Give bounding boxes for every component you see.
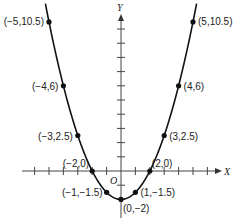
parabola-chart: (−5,10.5)(−4,6)(−3,2.5)(−2,0)(−1,−1.5)(0… bbox=[0, 0, 235, 222]
data-point bbox=[118, 197, 123, 202]
point-label: (−3,2.5) bbox=[38, 131, 73, 142]
data-point bbox=[75, 133, 80, 138]
data-point bbox=[90, 168, 95, 173]
data-point bbox=[46, 19, 51, 24]
y-axis-label: Y bbox=[117, 2, 124, 13]
data-point bbox=[104, 190, 109, 195]
point-label: (0,−2) bbox=[123, 203, 149, 214]
data-point bbox=[190, 19, 195, 24]
point-label: (1,−1.5) bbox=[140, 187, 175, 198]
point-label: (4,6) bbox=[184, 81, 205, 92]
data-point bbox=[176, 83, 181, 88]
point-label: (3,2.5) bbox=[169, 131, 198, 142]
point-label: (2,0) bbox=[152, 158, 173, 169]
data-point bbox=[133, 190, 138, 195]
point-label: (−4,6) bbox=[32, 81, 58, 92]
x-axis-label: X bbox=[223, 166, 231, 177]
data-point bbox=[61, 83, 66, 88]
axes bbox=[22, 14, 222, 218]
data-points: (−5,10.5)(−4,6)(−3,2.5)(−2,0)(−1,−1.5)(0… bbox=[4, 16, 233, 215]
data-point bbox=[147, 168, 152, 173]
point-label: (5,10.5) bbox=[198, 16, 232, 27]
point-label: (−2,0) bbox=[63, 158, 89, 169]
point-label: (−5,10.5) bbox=[4, 16, 44, 27]
point-label: (−1,−1.5) bbox=[62, 187, 103, 198]
data-point bbox=[162, 133, 167, 138]
origin-label: O bbox=[110, 175, 117, 186]
